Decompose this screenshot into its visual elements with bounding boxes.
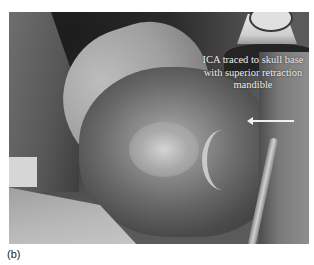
- surgical-field-highlight: [129, 122, 199, 177]
- arrow-shaft: [250, 120, 294, 122]
- annotation-line-1: ICA traced to skull base: [192, 54, 314, 67]
- surgical-photograph: [9, 12, 309, 244]
- annotation-label: ICA traced to skull base with superior r…: [192, 54, 314, 92]
- figure-panel: ICA traced to skull base with superior r…: [0, 0, 314, 265]
- annotation-line-2: with superior retraction: [192, 67, 314, 80]
- white-gauze: [9, 157, 37, 187]
- panel-label: (b): [7, 248, 20, 260]
- arrow-left-icon: [247, 117, 253, 125]
- internal-carotid-artery: [202, 130, 243, 190]
- annotation-line-3: mandible: [192, 79, 314, 92]
